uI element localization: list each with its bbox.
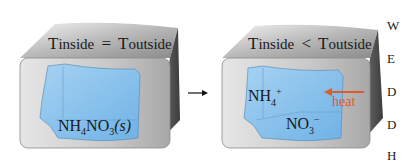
left-title-t: T [48,34,58,53]
left-title-inside: inside [58,36,94,52]
right-title-t2: T [318,34,328,53]
reaction-arrow-icon [188,90,208,96]
formula-sub: 4 [271,97,276,108]
left-title-outside: outside [128,36,171,52]
charge-sup: + [276,86,282,97]
state-label: (s) [114,117,131,134]
formula-part: NO [286,115,309,132]
left-title: Tinside = Toutside [48,34,172,54]
formula-part: NH [58,117,81,134]
charge-sup: − [314,114,320,125]
side-text-fragment: D [387,84,396,100]
formula-part: NH [248,87,271,104]
formula-part: NO [86,117,109,134]
right-title-inside: inside [258,36,294,52]
right-title-outside: outside [328,36,371,52]
diagram-canvas: Tinside = Toutside NH4NO3(s) Tinside < T… [0,0,406,163]
cropped-side-text: W E D D H [385,0,406,163]
left-solid-label: NH4NO3(s) [58,117,131,137]
side-text-fragment: H [387,148,396,163]
right-title-operator: < [301,34,311,53]
formula-sub: 3 [309,125,314,136]
side-text-fragment: E [387,51,395,67]
heat-label: heat [332,94,355,110]
side-text-fragment: W [387,18,399,34]
left-title-t2: T [118,34,128,53]
cation-label: NH4+ [248,86,282,108]
anion-label: NO3− [286,114,320,136]
left-title-operator: = [101,34,111,53]
side-text-fragment: D [387,117,396,133]
right-title: Tinside < Toutside [248,34,372,54]
right-title-t: T [248,34,258,53]
